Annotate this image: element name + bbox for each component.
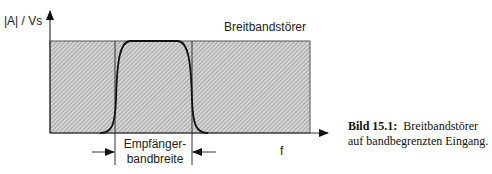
x-axis-label: f bbox=[280, 144, 283, 158]
figure: |A| / Vs Breitbandstörer f Empfänger- ba… bbox=[0, 0, 492, 174]
bandwidth-label: Empfänger- bandbreite bbox=[120, 137, 190, 167]
noise-label: Breitbandstörer bbox=[224, 20, 306, 34]
bandwidth-label-line2: bandbreite bbox=[120, 152, 190, 167]
noise-spectrum-area bbox=[50, 41, 310, 133]
caption-text-line2: auf bandbegrenzten Eingang. bbox=[348, 134, 488, 149]
figure-caption: Bild 15.1: Breitbandstörer auf bandbegre… bbox=[348, 119, 488, 149]
bandwidth-label-line1: Empfänger- bbox=[120, 137, 190, 152]
caption-text-line1: Breitbandstörer bbox=[403, 119, 478, 133]
caption-number: Bild 15.1: bbox=[348, 119, 397, 133]
y-axis-label: |A| / Vs bbox=[4, 14, 42, 28]
